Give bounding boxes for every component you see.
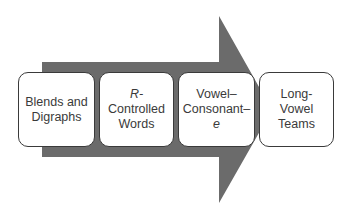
step-label-line: Long-Vowel [264, 87, 329, 117]
diagram-canvas: Blends and Digraphs R- Controlled Words … [0, 0, 349, 220]
step-label-line: R- [130, 87, 143, 101]
step-blends-digraphs: Blends and Digraphs [18, 72, 95, 147]
step-label-line: Consonant– [183, 102, 250, 117]
step-label-line: Controlled [108, 102, 165, 117]
step-label-line: Digraphs [25, 110, 88, 125]
step-vowel-consonant-e: Vowel– Consonant– e [178, 72, 255, 147]
step-r-controlled-words: R- Controlled Words [99, 72, 174, 147]
step-label-line: Vowel– [183, 87, 250, 102]
step-label-line: Words [108, 117, 165, 132]
step-long-vowel-teams: Long-Vowel Teams [259, 72, 334, 147]
step-label-line: Teams [264, 117, 329, 132]
step-label-line: Blends and [25, 95, 88, 110]
step-label-line: e [183, 117, 250, 132]
